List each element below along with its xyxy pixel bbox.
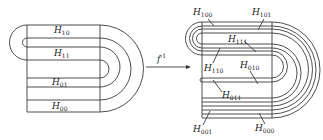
horseshoe-map-diagram: H10 H11 H01 H00 f-1 (0, 0, 323, 140)
label-h011: H011 (221, 90, 241, 101)
label-h110: H110 (203, 63, 223, 74)
label-h001: H001 (192, 124, 212, 135)
arrow-label: f-1 (156, 52, 166, 64)
inverse-map-arrow: f-1 (146, 52, 191, 69)
label-h11: H11 (53, 48, 70, 59)
left-horseshoe (10, 25, 144, 112)
label-h010: H010 (239, 60, 259, 71)
label-h101: H101 (251, 7, 271, 18)
label-h10: H10 (53, 25, 70, 36)
label-h100: H100 (192, 7, 212, 18)
label-h111: H111 (227, 34, 247, 45)
label-h00: H00 (51, 101, 68, 112)
label-h000: H000 (254, 123, 274, 134)
label-h01: H01 (51, 77, 68, 88)
